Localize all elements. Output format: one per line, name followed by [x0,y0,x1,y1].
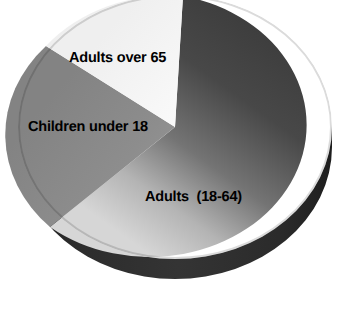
pie-chart: Adults over 65 Children under 18 Adults … [0,0,351,328]
pie-chart-graphic [0,0,351,328]
pie-label-adults-18-64: Adults (18-64) [145,190,242,205]
pie-label-children-under-18: Children under 18 [28,120,148,135]
pie-label-adults-over-65: Adults over 65 [69,51,166,66]
